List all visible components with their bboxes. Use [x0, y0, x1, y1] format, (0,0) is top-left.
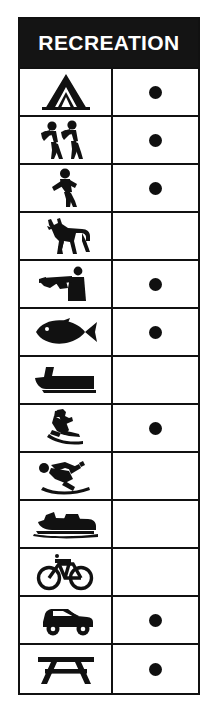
- motorboat-boating-icon: [32, 365, 100, 395]
- legend-row: Horseback Riding: [20, 213, 198, 261]
- availability-dot: [149, 663, 162, 676]
- availability-dot: [149, 278, 162, 291]
- legend-row: Water Skiing: [20, 405, 198, 453]
- availability-cell: [113, 645, 198, 693]
- snowmobile-icon: [30, 509, 102, 539]
- legend-row: Picnicking: [20, 645, 198, 693]
- symbol-cell: Horseback Riding: [20, 213, 113, 259]
- symbol-cell: Bicycling: [20, 549, 113, 595]
- legend-row: Off-Road Vehicles: [20, 597, 198, 645]
- availability-cell: [113, 213, 198, 259]
- horse-horseback-riding-icon: [38, 216, 94, 256]
- symbol-cell: Off-Road Vehicles: [20, 597, 113, 643]
- availability-dot: [149, 614, 162, 627]
- symbol-cell: Hunting: [20, 261, 113, 307]
- availability-cell: [113, 357, 198, 403]
- legend-row: Fishing: [20, 309, 198, 357]
- fish-fishing-icon: [32, 318, 100, 346]
- legend-row: Camping: [20, 69, 198, 117]
- legend-row: Hiking: [20, 165, 198, 213]
- legend-row: Downhill Skiing: [20, 453, 198, 501]
- symbol-cell: Downhill Skiing: [20, 453, 113, 499]
- availability-cell: [113, 501, 198, 547]
- legend-header: RECREATION: [20, 19, 198, 69]
- availability-dot: [149, 86, 162, 99]
- off-road-vehicle-icon: [35, 602, 97, 638]
- legend-row: Bicycling: [20, 549, 198, 597]
- legend-row: Backpacking: [20, 117, 198, 165]
- hunter-rifle-icon: [36, 266, 96, 302]
- availability-cell: [113, 117, 198, 163]
- legend-title: RECREATION: [38, 31, 179, 55]
- availability-cell: [113, 309, 198, 355]
- availability-dot: [149, 422, 162, 435]
- availability-dot: [149, 326, 162, 339]
- legend-row: Snowmobiling: [20, 501, 198, 549]
- legend-row: Hunting: [20, 261, 198, 309]
- availability-dot: [149, 134, 162, 147]
- symbol-cell: Snowmobiling: [20, 501, 113, 547]
- picnic-table-icon: [35, 652, 97, 686]
- availability-cell: [113, 549, 198, 595]
- tent-camping-icon: [39, 73, 93, 111]
- bicycle-icon: [35, 553, 97, 591]
- hikers-backpacking-icon: [38, 120, 94, 160]
- water-skier-icon: [39, 408, 93, 448]
- availability-cell: [113, 69, 198, 115]
- symbol-cell: Picnicking: [20, 645, 113, 693]
- availability-cell: [113, 405, 198, 451]
- symbol-cell: Hiking: [20, 165, 113, 211]
- availability-cell: [113, 597, 198, 643]
- symbol-cell: Boating: [20, 357, 113, 403]
- recreation-legend-table: RECREATION Camping: [18, 17, 200, 695]
- walking-hiking-icon: [46, 168, 86, 208]
- availability-dot: [149, 182, 162, 195]
- downhill-skier-icon: [35, 457, 97, 495]
- availability-cell: [113, 165, 198, 211]
- symbol-cell: Fishing: [20, 309, 113, 355]
- availability-cell: [113, 261, 198, 307]
- availability-cell: [113, 453, 198, 499]
- legend-row: Boating: [20, 357, 198, 405]
- symbol-cell: Camping: [20, 69, 113, 115]
- symbol-cell: Water Skiing: [20, 405, 113, 451]
- symbol-cell: Backpacking: [20, 117, 113, 163]
